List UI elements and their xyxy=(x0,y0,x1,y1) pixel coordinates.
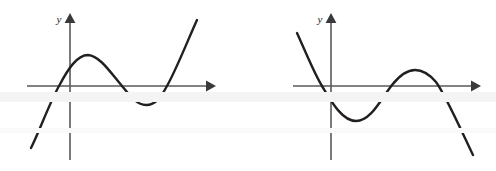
left-graph-y-axis-label: y xyxy=(56,13,62,25)
left-graph-curve xyxy=(31,20,197,148)
left-graph-y-axis-arrowhead-icon xyxy=(65,13,76,23)
left-graph: y xyxy=(27,13,216,160)
left-graph-x-axis-arrowhead-icon xyxy=(206,81,216,92)
right-graph-x-axis-label: x xyxy=(471,89,477,101)
right-graph-y-axis-arrowhead-icon xyxy=(326,13,337,23)
right-graph-curve xyxy=(297,33,473,155)
right-graph-y-axis-label: y xyxy=(317,13,323,25)
two-cubic-graphs-figure: y y x xyxy=(0,0,496,171)
figure-canvas: y y x xyxy=(0,0,496,171)
right-graph: y x xyxy=(293,13,481,160)
